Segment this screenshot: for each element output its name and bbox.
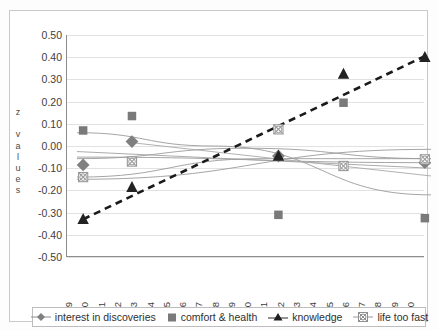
legend-item[interactable]: interest in discoveries (30, 311, 156, 323)
legend-item-label: knowledge (292, 311, 342, 323)
gridline (67, 124, 424, 125)
gridline (67, 146, 424, 147)
y-axis-tick-label: -0.40 (18, 230, 62, 240)
gridline (67, 35, 424, 36)
y-axis-tick-label: 0.10 (18, 119, 62, 129)
y-axis-tick-label: -0.10 (18, 163, 62, 173)
y-axis-tick-label: 0.30 (18, 74, 62, 84)
gridline (67, 57, 424, 58)
gridline (67, 168, 424, 169)
legend-item[interactable]: knowledge (267, 311, 342, 323)
y-axis-tick-label: -0.30 (18, 208, 62, 218)
gridline (67, 257, 424, 258)
y-axis-tick-label: -0.50 (18, 252, 62, 262)
x-axis-ticks: 1989199019911992199319941995199619971998… (66, 259, 424, 303)
y-axis-ticks: 0.500.400.300.200.100.00-0.10-0.20-0.30-… (14, 35, 62, 257)
square-icon (166, 311, 178, 323)
chart-screenshot: z values 0.500.400.300.200.100.00-0.10-0… (0, 0, 438, 330)
legend-item[interactable]: life too fast (352, 311, 428, 323)
y-axis-tick-label: 0.20 (18, 97, 62, 107)
gridline (67, 190, 424, 191)
y-axis-tick-label: 0.40 (18, 52, 62, 62)
diamond-line-icon (30, 311, 52, 323)
y-axis-tick-label: -0.20 (18, 185, 62, 195)
triangle-line-icon (267, 311, 289, 323)
gridline (67, 235, 424, 236)
chart-legend: interest in discoveriescomfort & healthk… (32, 307, 426, 327)
legend-item-label: comfort & health (181, 311, 257, 323)
chart-frame: z values 0.500.400.300.200.100.00-0.10-0… (9, 10, 428, 322)
legend-item[interactable]: comfort & health (166, 311, 257, 323)
circle-x-line-icon (352, 311, 374, 323)
gridline (67, 213, 424, 214)
gridline (67, 79, 424, 80)
y-axis-tick-label: 0.00 (18, 141, 62, 151)
y-axis-tick-label: 0.50 (18, 30, 62, 40)
plot-area (66, 35, 424, 257)
legend-item-label: interest in discoveries (55, 311, 156, 323)
legend-item-label: life too fast (377, 311, 428, 323)
gridline (67, 102, 424, 103)
